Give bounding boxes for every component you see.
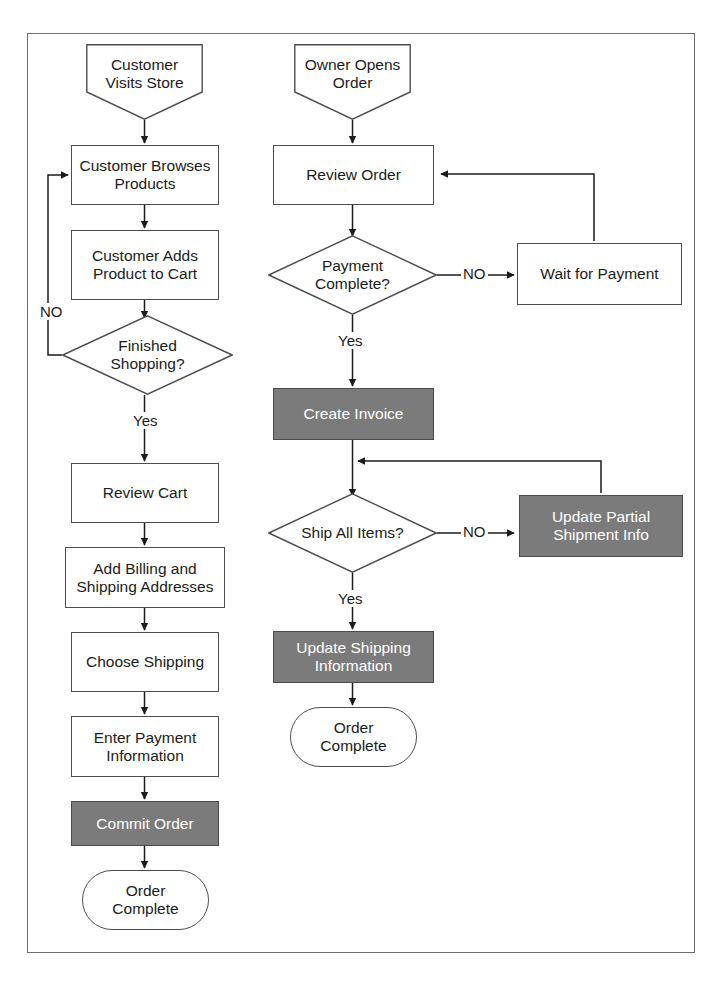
node-label: Finished Shopping? bbox=[73, 337, 221, 373]
node-review-cart[interactable]: Review Cart bbox=[71, 463, 219, 523]
node-label: Wait for Payment bbox=[536, 265, 662, 283]
node-customer-visits-store[interactable]: Customer Visits Store bbox=[86, 44, 203, 120]
node-label: Ship All Items? bbox=[279, 524, 426, 542]
node-customer-adds-product-to-cart[interactable]: Customer Adds Product to Cart bbox=[71, 230, 219, 300]
node-finished-shopping[interactable]: Finished Shopping? bbox=[62, 315, 233, 395]
node-create-invoice[interactable]: Create Invoice bbox=[273, 388, 434, 440]
node-add-billing-and-shipping-addresses[interactable]: Add Billing and Shipping Addresses bbox=[65, 547, 225, 608]
node-label: Create Invoice bbox=[300, 405, 408, 423]
node-label: Update Shipping Information bbox=[292, 639, 415, 675]
node-label: Customer Adds Product to Cart bbox=[88, 247, 202, 283]
node-enter-payment-information[interactable]: Enter Payment Information bbox=[71, 716, 219, 777]
node-label: Customer Visits Store bbox=[86, 56, 203, 108]
node-review-order[interactable]: Review Order bbox=[273, 145, 434, 205]
node-ship-all-items[interactable]: Ship All Items? bbox=[268, 493, 437, 573]
edge-label-payment-complete-no: NO bbox=[461, 265, 488, 282]
node-label: Update Partial Shipment Info bbox=[548, 508, 654, 544]
edge-label-ship-all-items-yes: Yes bbox=[336, 590, 364, 607]
node-wait-for-payment[interactable]: Wait for Payment bbox=[517, 243, 682, 305]
node-owner-opens-order[interactable]: Owner Opens Order bbox=[294, 44, 411, 120]
node-label: Choose Shipping bbox=[82, 653, 208, 671]
node-choose-shipping[interactable]: Choose Shipping bbox=[71, 632, 219, 692]
node-label: Add Billing and Shipping Addresses bbox=[72, 560, 217, 596]
edge-label-finished-shopping-no: NO bbox=[38, 303, 65, 320]
edge-label-payment-complete-yes: Yes bbox=[336, 332, 364, 349]
node-label: Payment Complete? bbox=[279, 257, 426, 293]
node-label: Commit Order bbox=[92, 815, 197, 833]
node-label: Owner Opens Order bbox=[294, 56, 411, 108]
node-update-partial-shipment-info[interactable]: Update Partial Shipment Info bbox=[519, 495, 683, 557]
flowchart-canvas: Customer Visits Store Customer Browses P… bbox=[0, 0, 722, 989]
node-order-complete-owner[interactable]: Order Complete bbox=[290, 707, 417, 767]
edge-label-finished-shopping-yes: Yes bbox=[131, 412, 159, 429]
node-label: Order Complete bbox=[316, 719, 390, 755]
node-payment-complete[interactable]: Payment Complete? bbox=[268, 235, 437, 315]
node-update-shipping-information[interactable]: Update Shipping Information bbox=[273, 631, 434, 683]
node-order-complete-customer[interactable]: Order Complete bbox=[82, 870, 209, 930]
node-label: Customer Browses Products bbox=[76, 157, 215, 193]
node-label: Review Cart bbox=[99, 484, 191, 502]
node-label: Enter Payment Information bbox=[90, 729, 201, 765]
node-commit-order[interactable]: Commit Order bbox=[71, 801, 219, 846]
node-label: Order Complete bbox=[108, 882, 182, 918]
node-label: Review Order bbox=[302, 166, 405, 184]
edge-label-ship-all-items-no: NO bbox=[461, 523, 488, 540]
node-customer-browses-products[interactable]: Customer Browses Products bbox=[71, 145, 219, 205]
